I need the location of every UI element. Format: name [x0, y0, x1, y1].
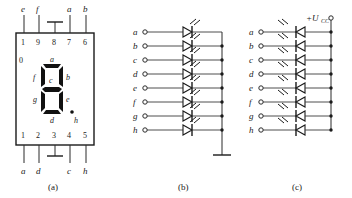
- bottom-pin-label-a: a: [21, 166, 26, 176]
- b-label-a: a: [133, 27, 138, 37]
- top-pin-number-8: 8: [52, 38, 56, 47]
- seven-segment-glyph: [41, 64, 74, 114]
- led-c-h: [278, 117, 305, 136]
- c-terminal-h[interactable]: [259, 128, 263, 132]
- figure-root: 0 1 9 8 7 6 e f a b 1 2 3 4 5: [0, 0, 352, 198]
- b-label-g: g: [133, 111, 138, 121]
- c-terminal-b[interactable]: [259, 44, 263, 48]
- caption-b: (b): [178, 182, 189, 192]
- segment-c: [42, 87, 62, 92]
- top-pin-number-7: 7: [67, 38, 71, 47]
- segment-label-b: b: [66, 73, 70, 82]
- c-label-c: c: [249, 55, 253, 65]
- led-c-f: [278, 89, 305, 108]
- top-pin-leads: [24, 15, 86, 33]
- segment-a: [43, 64, 61, 68]
- b-label-f: f: [133, 97, 137, 107]
- segment-label-g: g: [33, 95, 37, 104]
- top-pin-label-b: b: [83, 4, 88, 14]
- led-c-a: [278, 19, 305, 38]
- led-c-e: [278, 75, 305, 94]
- c-label-d: d: [249, 69, 254, 79]
- supply-label: +U: [306, 13, 319, 23]
- segment-f: [41, 66, 45, 87]
- panel-c-output-wires: [305, 32, 331, 130]
- bottom-pin-number-5: 5: [83, 131, 87, 140]
- led-c-b: [278, 33, 305, 52]
- segment-label-f: f: [33, 73, 37, 82]
- b-terminal-b[interactable]: [143, 44, 147, 48]
- b-label-e: e: [133, 83, 137, 93]
- supply-terminal[interactable]: [329, 16, 333, 20]
- top-pin-label-e: e: [21, 4, 25, 14]
- panel-c-terminals: [259, 30, 263, 132]
- segment-d: [43, 110, 61, 114]
- panel-c-terminal-labels: a b c d e f g h: [249, 27, 254, 135]
- top-pin-label-f: f: [36, 4, 40, 14]
- c-label-b: b: [249, 41, 254, 51]
- b-terminal-c[interactable]: [143, 58, 147, 62]
- bottom-pin-leads: [24, 145, 86, 163]
- panel-b-terminals: [143, 30, 147, 132]
- b-terminal-a[interactable]: [143, 30, 147, 34]
- b-terminal-d[interactable]: [143, 72, 147, 76]
- segment-b: [59, 66, 63, 87]
- segment-label-h: h: [74, 116, 78, 125]
- c-label-g: g: [249, 111, 254, 121]
- segment-g: [41, 91, 45, 112]
- decimal-point: [70, 110, 74, 114]
- bottom-pin-number-2: 2: [36, 131, 40, 140]
- segment-label-a: a: [50, 55, 54, 64]
- c-label-a: a: [249, 27, 254, 37]
- bottom-pin-label-c: c: [67, 166, 71, 176]
- b-label-b: b: [133, 41, 138, 51]
- b-terminal-h[interactable]: [143, 128, 147, 132]
- top-pin-number-9: 9: [36, 38, 40, 47]
- c-terminal-a[interactable]: [259, 30, 263, 34]
- c-terminal-g[interactable]: [259, 114, 263, 118]
- b-label-d: d: [133, 69, 138, 79]
- b-label-c: c: [133, 55, 137, 65]
- segment-e: [59, 91, 63, 112]
- top-pin-number-1: 1: [21, 38, 25, 47]
- c-label-h: h: [249, 125, 254, 135]
- supply-label-subscript: CC: [321, 18, 330, 24]
- b-terminal-e[interactable]: [143, 86, 147, 90]
- bottom-pin-number-4: 4: [67, 131, 71, 140]
- panel-b-output-wires: [192, 32, 222, 130]
- led-c-c: [278, 47, 305, 66]
- corner-mark: 0: [19, 56, 23, 65]
- led-c-d: [278, 61, 305, 80]
- panel-b-terminal-labels: a b c d e f g h: [133, 27, 138, 135]
- segment-label-d: d: [50, 116, 55, 125]
- caption-a: (a): [48, 182, 58, 192]
- top-pin-number-6: 6: [83, 38, 87, 47]
- bottom-pin-number-3: 3: [52, 131, 56, 140]
- b-label-h: h: [133, 125, 138, 135]
- panel-c-input-wires: [263, 32, 296, 130]
- b-terminal-f[interactable]: [143, 100, 147, 104]
- c-terminal-f[interactable]: [259, 100, 263, 104]
- segment-label-c: c: [49, 76, 53, 85]
- bottom-pin-label-h: h: [83, 166, 88, 176]
- c-terminal-e[interactable]: [259, 86, 263, 90]
- panel-b-leds: [183, 19, 200, 136]
- bottom-pin-label-d: d: [36, 166, 41, 176]
- c-terminal-d[interactable]: [259, 72, 263, 76]
- top-pin-label-a: a: [67, 4, 72, 14]
- c-label-f: f: [249, 97, 253, 107]
- bottom-pin-number-1: 1: [21, 131, 25, 140]
- c-label-e: e: [249, 83, 253, 93]
- segment-label-e: e: [66, 95, 70, 104]
- panel-c-group: a b c d e f g h: [249, 13, 333, 192]
- panel-c-leds: [278, 19, 305, 136]
- c-terminal-c[interactable]: [259, 58, 263, 62]
- panel-b-group: a b c d e f g h: [133, 19, 231, 192]
- panel-a-group: 0 1 9 8 7 6 e f a b 1 2 3 4 5: [16, 4, 94, 192]
- b-terminal-g[interactable]: [143, 114, 147, 118]
- panel-b-input-wires: [147, 32, 183, 130]
- caption-c: (c): [292, 182, 302, 192]
- led-c-g: [278, 103, 305, 122]
- led-b-a: [183, 19, 200, 38]
